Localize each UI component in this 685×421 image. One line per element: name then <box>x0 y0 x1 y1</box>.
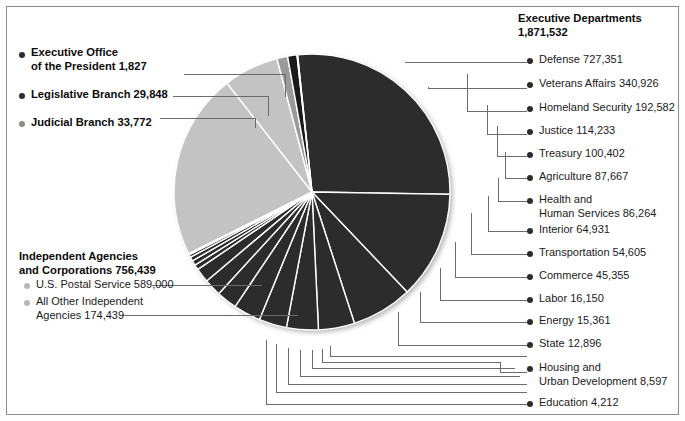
legend-item-right-6[interactable]: Health andHuman Services 86,264 <box>539 193 656 220</box>
legend-label-judicial-branch: Judicial Branch 33,772 <box>31 116 152 130</box>
legend-item-right-14[interactable]: Education 4,212 <box>539 396 619 410</box>
bullet-right-13-icon <box>527 366 533 372</box>
bullet-right-0-icon <box>527 58 533 64</box>
legend-item-right-7[interactable]: Interior 64,931 <box>539 223 610 237</box>
legend-item-right-12[interactable]: State 12,896 <box>539 337 601 351</box>
legend-label-right-9-line1: Commerce 45,355 <box>539 269 630 283</box>
legend-item-usps[interactable]: U.S. Postal Service 589,000 <box>36 278 174 292</box>
legend-label-right-13-line2: Urban Development 8,597 <box>539 375 667 389</box>
legend-item-right-4[interactable]: Treasury 100,402 <box>539 147 625 161</box>
legend-label-right-11-line1: Energy 15,361 <box>539 314 611 328</box>
bullet-right-1-icon <box>527 82 533 88</box>
legend-label-right-2-line1: Homeland Security 192,582 <box>539 101 675 115</box>
legend-label-legislative-branch: Legislative Branch 29,848 <box>31 88 168 102</box>
legend-item-executive-office[interactable]: Executive Office of the President 1,827 <box>31 46 147 73</box>
pie-chart <box>172 52 456 336</box>
legend-label-right-5-line1: Agriculture 87,667 <box>539 170 628 184</box>
legend-label-right-8-line1: Transportation 54,605 <box>539 246 646 260</box>
legend-item-judicial-branch[interactable]: Judicial Branch 33,772 <box>31 116 152 130</box>
legend-item-right-0[interactable]: Defense 727,351 <box>539 53 623 67</box>
legend-header-independent-line2: and Corporations 756,439 <box>19 264 156 278</box>
legend-item-legislative-branch[interactable]: Legislative Branch 29,848 <box>31 88 168 102</box>
legend-item-right-13[interactable]: Housing andUrban Development 8,597 <box>539 361 667 388</box>
legend-item-right-8[interactable]: Transportation 54,605 <box>539 246 646 260</box>
pie-slices <box>174 54 450 330</box>
legend-label-right-1-line1: Veterans Affairs 340,926 <box>539 77 659 91</box>
bullet-legislative-branch-icon <box>19 93 25 99</box>
legend-item-right-9[interactable]: Commerce 45,355 <box>539 269 630 283</box>
legend-item-right-10[interactable]: Labor 16,150 <box>539 292 604 306</box>
legend-item-right-1[interactable]: Veterans Affairs 340,926 <box>539 77 659 91</box>
legend-label-right-12-line1: State 12,896 <box>539 337 601 351</box>
bullet-right-5-icon <box>527 175 533 181</box>
bullet-right-6-icon <box>527 198 533 204</box>
bullet-right-3-icon <box>527 129 533 135</box>
legend-label-right-14-line1: Education 4,212 <box>539 396 619 410</box>
bullet-usps-icon <box>24 283 30 289</box>
bullet-right-11-icon <box>527 319 533 325</box>
bullet-right-7-icon <box>527 228 533 234</box>
legend-header-executive-departments: Executive Departments 1,871,532 <box>518 12 642 39</box>
legend-label-other-independent-line1: All Other Independent <box>36 295 143 309</box>
bullet-right-12-icon <box>527 342 533 348</box>
legend-item-right-5[interactable]: Agriculture 87,667 <box>539 170 628 184</box>
legend-label-other-independent-line2: Agencies 174,439 <box>36 309 143 323</box>
legend-item-right-2[interactable]: Homeland Security 192,582 <box>539 101 675 115</box>
legend-label-right-6-line1: Health and <box>539 193 656 207</box>
bullet-right-8-icon <box>527 251 533 257</box>
legend-item-other-independent[interactable]: All Other Independent Agencies 174,439 <box>36 295 143 322</box>
legend-label-right-10-line1: Labor 16,150 <box>539 292 604 306</box>
pie-svg <box>172 52 456 336</box>
bullet-right-2-icon <box>527 106 533 112</box>
legend-header-exec-line2: 1,871,532 <box>518 26 642 40</box>
legend-item-right-11[interactable]: Energy 15,361 <box>539 314 611 328</box>
pie-slice-defense[interactable] <box>298 54 450 194</box>
legend-label-right-6-line2: Human Services 86,264 <box>539 207 656 221</box>
legend-header-independent-line1: Independent Agencies <box>19 250 156 264</box>
legend-label-usps: U.S. Postal Service 589,000 <box>36 278 174 292</box>
bullet-right-10-icon <box>527 297 533 303</box>
bullet-judicial-branch-icon <box>19 121 25 127</box>
legend-label-executive-office-line1: Executive Office <box>31 46 147 60</box>
bullet-other-independent-icon <box>24 300 30 306</box>
legend-header-exec-line1: Executive Departments <box>518 12 642 26</box>
legend-label-right-7-line1: Interior 64,931 <box>539 223 610 237</box>
legend-item-right-3[interactable]: Justice 114,233 <box>539 124 615 138</box>
bullet-right-14-icon <box>527 401 533 407</box>
bullet-right-9-icon <box>527 274 533 280</box>
bullet-executive-office-icon <box>19 52 25 58</box>
legend-header-independent-agencies: Independent Agencies and Corporations 75… <box>19 250 156 277</box>
legend-label-right-4-line1: Treasury 100,402 <box>539 147 625 161</box>
legend-label-right-3-line1: Justice 114,233 <box>539 124 615 138</box>
legend-label-right-0-line1: Defense 727,351 <box>539 53 623 67</box>
chart-page: Executive Office of the President 1,827 … <box>0 0 685 421</box>
bullet-right-4-icon <box>527 152 533 158</box>
legend-label-executive-office-line2: of the President 1,827 <box>31 60 147 74</box>
legend-label-right-13-line1: Housing and <box>539 361 667 375</box>
